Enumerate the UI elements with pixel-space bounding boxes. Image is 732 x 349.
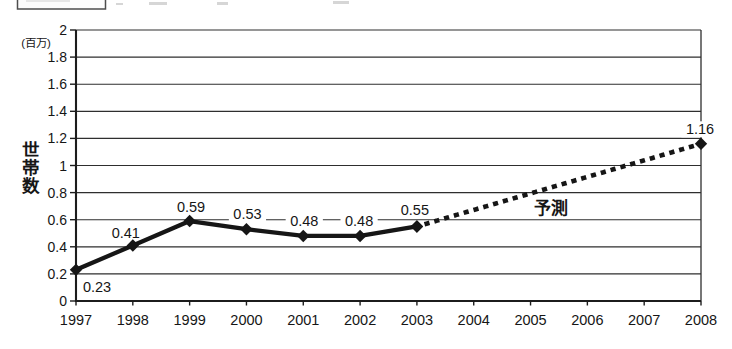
y-unit-label: (百万) xyxy=(21,37,51,49)
y-tick-label: 1.8 xyxy=(48,49,68,65)
data-point-marker xyxy=(127,239,139,251)
y-tick-label: 0.8 xyxy=(48,185,68,201)
data-point-marker xyxy=(411,220,423,232)
cropped-text-remnant xyxy=(333,1,349,4)
y-axis-title: 世 xyxy=(22,140,39,160)
data-label: 0.23 xyxy=(83,279,111,295)
x-tick-label: 2002 xyxy=(344,312,376,328)
x-tick-label: 2006 xyxy=(571,312,603,328)
data-label: 0.55 xyxy=(401,202,429,218)
y-tick-label: 1 xyxy=(59,158,67,174)
y-tick-label: 0.6 xyxy=(48,212,68,228)
data-point-marker xyxy=(297,230,309,242)
data-label: 1.16 xyxy=(686,121,714,137)
cropped-text-remnant xyxy=(217,2,228,5)
data-label: 0.59 xyxy=(177,199,205,215)
x-tick-label: 2001 xyxy=(287,312,319,328)
y-tick-label: 1.2 xyxy=(48,130,68,146)
data-point-marker xyxy=(354,230,366,242)
x-tick-label: 1998 xyxy=(117,312,149,328)
x-tick-label: 2008 xyxy=(685,312,717,328)
data-label: 0.48 xyxy=(290,213,318,229)
y-tick-label: 1.4 xyxy=(48,103,68,119)
data-point-marker xyxy=(695,138,707,150)
x-tick-label: 2000 xyxy=(230,312,262,328)
data-point-marker xyxy=(183,215,195,227)
y-tick-label: 0.2 xyxy=(48,266,68,282)
data-label: 0.41 xyxy=(112,225,140,241)
x-tick-label: 2003 xyxy=(401,312,433,328)
chart-figure: 21.81.61.41.210.80.60.40.201997199819992… xyxy=(0,0,732,349)
cropped-text-remnant xyxy=(149,2,167,5)
y-tick-label: 1.6 xyxy=(48,76,68,92)
y-axis-title: 帯 xyxy=(22,158,39,178)
y-tick-label: 0.4 xyxy=(48,239,68,255)
data-point-marker xyxy=(240,223,252,235)
x-tick-label: 2004 xyxy=(458,312,490,328)
y-tick-label: 2 xyxy=(59,22,67,38)
cropped-box-content-remnant xyxy=(26,0,70,2)
y-tick-label: 0 xyxy=(59,293,67,309)
y-axis-title: 数 xyxy=(22,176,40,196)
x-tick-label: 1997 xyxy=(60,312,92,328)
x-tick-label: 1999 xyxy=(174,312,206,328)
x-tick-label: 2005 xyxy=(514,312,546,328)
cropped-text-remnant xyxy=(116,3,123,5)
households-forecast-line-chart: 21.81.61.41.210.80.60.40.201997199819992… xyxy=(0,0,732,349)
x-tick-label: 2007 xyxy=(628,312,660,328)
data-label: 0.48 xyxy=(345,213,373,229)
forecast-annotation: 予測 xyxy=(534,198,568,218)
data-label: 0.53 xyxy=(233,206,261,222)
